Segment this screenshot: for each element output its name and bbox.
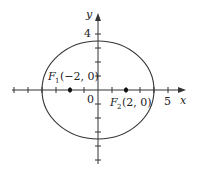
origin-label: 0 <box>87 93 94 106</box>
y-tick-label-4: 4 <box>84 27 91 40</box>
y-axis-arrow-icon <box>95 13 101 21</box>
svg-text:1: 1 <box>55 77 59 85</box>
ellipse-diagram: y x 4 5 0 F 1 (−2, 0) F 2 (2, 0) <box>0 0 198 170</box>
y-axis-label: y <box>85 8 93 21</box>
focus-label-f1: F 1 (−2, 0) <box>47 70 99 85</box>
x-axis-label: x <box>180 94 187 107</box>
x-tick-label-5: 5 <box>164 95 171 108</box>
x-axis-arrow-icon <box>178 87 186 93</box>
focus-point-f2 <box>124 88 128 92</box>
svg-text:(2, 0): (2, 0) <box>122 96 152 109</box>
svg-text:(−2, 0): (−2, 0) <box>60 70 99 83</box>
svg-text:2: 2 <box>117 103 121 111</box>
focus-point-f1 <box>68 88 72 92</box>
focus-label-f2: F 2 (2, 0) <box>109 96 152 111</box>
